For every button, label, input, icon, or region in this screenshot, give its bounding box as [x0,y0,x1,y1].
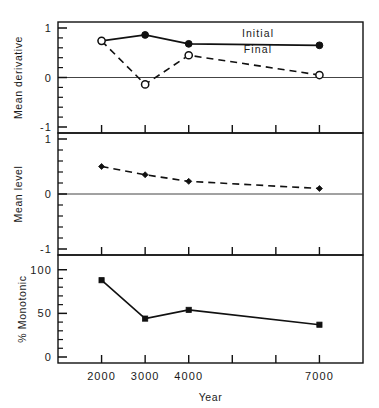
series-line--monotonic [102,280,320,325]
marker-filled-circle [316,42,323,49]
figure-three-panel-chart: -101Mean derivativeInitialFinal-101Mean … [0,0,379,408]
y-axis-title-bottom: % Monotonic [16,275,28,342]
panel-middle: -101Mean level [12,133,363,255]
series-line-initial [102,35,320,45]
marker-filled-square [99,278,104,283]
x-axis-title: Year [199,391,223,403]
y-tick-label: 1 [45,22,52,34]
marker-open-circle [142,81,149,88]
marker-filled-diamond [99,164,105,170]
x-tick-label: 3000 [131,370,160,382]
y-tick-label: 1 [45,133,52,145]
x-tick-label: 7000 [305,370,334,382]
y-tick-label: -1 [40,243,52,255]
series-line-mean-level [102,167,320,189]
series-label-initial: Initial [242,27,274,39]
y-tick-label: 0 [45,188,52,200]
marker-filled-square [143,316,148,321]
y-axis-title-middle: Mean level [12,166,24,223]
marker-filled-diamond [142,172,148,178]
chart-canvas: -101Mean derivativeInitialFinal-101Mean … [0,0,379,408]
y-tick-label: 100 [30,264,52,276]
marker-open-circle [98,37,105,44]
y-tick-label: 0 [45,351,52,363]
x-tick-label: 4000 [174,370,203,382]
marker-filled-diamond [316,186,322,192]
y-tick-label: 50 [38,307,52,319]
panel-frame-bottom [58,255,363,363]
y-tick-label: 0 [45,72,52,84]
marker-filled-circle [142,32,149,39]
marker-open-circle [316,71,323,78]
marker-filled-circle [185,40,192,47]
panel-bottom: 050100% Monotonic [16,255,363,363]
x-tick-label: 2000 [87,370,116,382]
marker-filled-square [186,307,191,312]
y-tick-label: -1 [40,121,52,133]
marker-filled-diamond [186,178,192,184]
y-axis-title-top: Mean derivative [12,36,24,119]
marker-filled-square [317,322,322,327]
panel-top: -101Mean derivativeInitialFinal [12,22,363,133]
marker-open-circle [185,52,192,59]
series-label-final: Final [244,43,272,55]
